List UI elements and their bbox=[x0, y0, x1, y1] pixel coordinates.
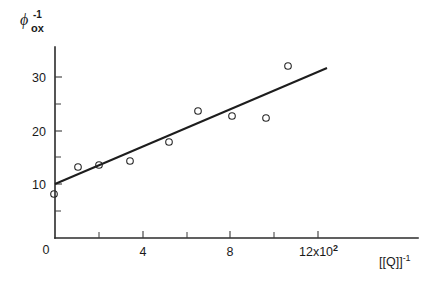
x-multiplier-exponent: 2 bbox=[333, 243, 338, 253]
axes-group bbox=[55, 47, 418, 238]
x-axis-title: [[Q]]-1 bbox=[379, 253, 411, 269]
data-point bbox=[285, 63, 292, 70]
y-tick-label-30: 30 bbox=[32, 71, 46, 85]
x-tick-label-0: 0 bbox=[43, 243, 50, 257]
y-axis-title: ϕ -1 ox bbox=[20, 9, 45, 34]
data-point bbox=[263, 115, 270, 122]
data-point bbox=[75, 164, 82, 171]
x-axis-title-superscript: -1 bbox=[403, 253, 411, 263]
data-point bbox=[166, 139, 173, 146]
data-point bbox=[195, 108, 202, 115]
y-axis-title-subscript: ox bbox=[31, 22, 45, 34]
data-point bbox=[127, 158, 134, 165]
figure-container: 0 4 8 12x102 10 20 30 ϕ -1 ox [[Q]]-1 bbox=[0, 0, 427, 284]
x-multiplier-text: 12x10 bbox=[299, 245, 333, 259]
y-tick-label-10: 10 bbox=[32, 178, 46, 192]
y-axis-title-symbol: ϕ bbox=[20, 11, 28, 29]
x-axis-title-base: [[Q]] bbox=[379, 255, 403, 269]
data-point bbox=[51, 191, 58, 198]
data-points-group bbox=[51, 63, 292, 198]
x-tick-label-12: 12x102 bbox=[299, 243, 338, 259]
y-axis-title-superscript: -1 bbox=[33, 9, 42, 20]
scatter-plot: 0 4 8 12x102 10 20 30 ϕ -1 ox [[Q]]-1 bbox=[0, 0, 427, 284]
data-point bbox=[229, 113, 236, 120]
y-tick-label-20: 20 bbox=[32, 125, 46, 139]
x-tick-labels: 0 4 8 12x102 bbox=[43, 243, 339, 259]
y-tick-labels: 10 20 30 bbox=[32, 71, 46, 192]
x-tick-marks bbox=[99, 231, 318, 238]
x-tick-label-4: 4 bbox=[140, 245, 147, 259]
x-axis-title-text: [[Q]]-1 bbox=[379, 253, 411, 269]
x-tick-label-8: 8 bbox=[227, 245, 234, 259]
